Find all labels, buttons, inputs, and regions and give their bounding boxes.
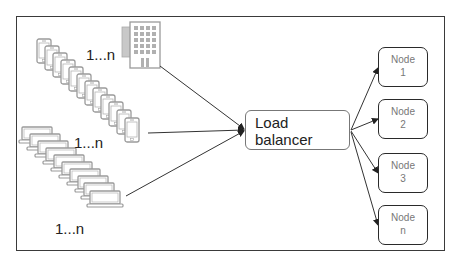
buildings-count-label: 1...n	[86, 46, 115, 63]
node-n-box: Node n	[378, 205, 428, 245]
node-label: Node	[379, 211, 427, 224]
node-1-box: Node 1	[378, 47, 428, 87]
node-number: 2	[379, 118, 427, 131]
phones-count-label: 1...n	[74, 134, 103, 151]
diagram-canvas: 1...n 1...n 1...n Load balancer Node 1 N…	[0, 0, 460, 262]
laptops-count-label: 1...n	[55, 220, 84, 237]
node-number: 3	[379, 172, 427, 185]
client-arrows	[126, 66, 244, 196]
laptop-stack-icon	[19, 127, 123, 207]
node-label: Node	[379, 159, 427, 172]
load-balancer-label-line2: balancer	[255, 131, 349, 148]
office-building-icon	[122, 22, 160, 68]
node-2-box: Node 2	[378, 99, 428, 139]
load-balancer-label-line1: Load	[255, 114, 349, 131]
node-label: Node	[379, 105, 427, 118]
node-3-box: Node 3	[378, 153, 428, 193]
node-number: 1	[379, 66, 427, 79]
node-label: Node	[379, 53, 427, 66]
node-number: n	[379, 224, 427, 237]
node-arrows	[351, 68, 378, 225]
load-balancer-box: Load balancer	[245, 110, 350, 150]
